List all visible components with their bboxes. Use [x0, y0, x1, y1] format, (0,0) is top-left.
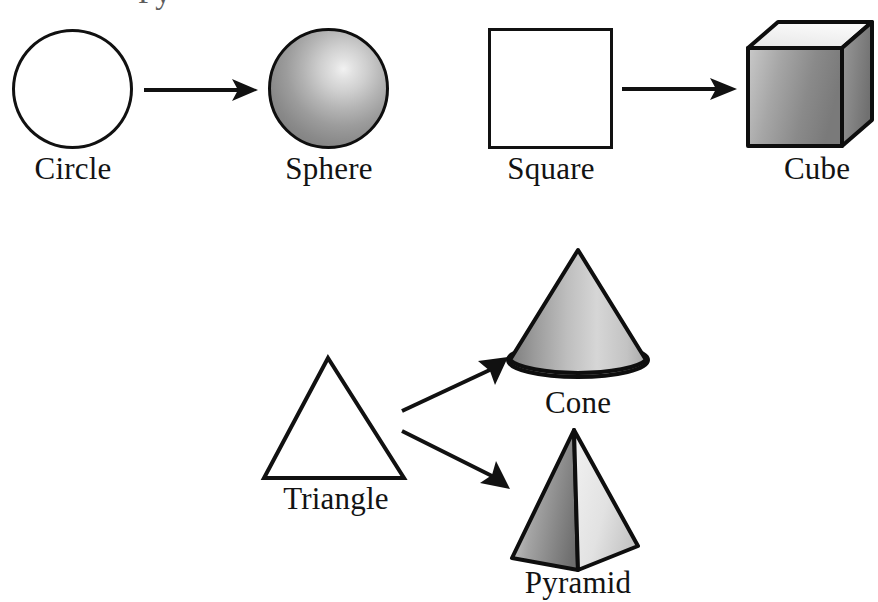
- label-sphere: Sphere: [266, 152, 392, 186]
- pyramid-shape: [502, 424, 652, 578]
- sphere-shape: [268, 28, 389, 149]
- label-cube: Cube: [756, 152, 878, 186]
- square-shape: [488, 28, 613, 149]
- clipped-top-text: Py: [138, 0, 171, 11]
- label-cone: Cone: [500, 386, 656, 420]
- shapes-diagram-canvas: Py Circle Sphere: [0, 0, 878, 602]
- triangle-shape: [258, 352, 410, 484]
- arrow-triangle-to-pyramid: [398, 425, 518, 493]
- circle-shape: [12, 29, 133, 149]
- label-square: Square: [486, 152, 616, 186]
- label-circle: Circle: [10, 152, 136, 186]
- arrow-circle-to-sphere: [142, 70, 260, 110]
- label-triangle: Triangle: [256, 482, 416, 516]
- label-pyramid: Pyramid: [490, 566, 666, 600]
- cone-shape: [500, 244, 656, 386]
- arrow-square-to-cube: [620, 69, 740, 109]
- cube-shape: [742, 16, 878, 158]
